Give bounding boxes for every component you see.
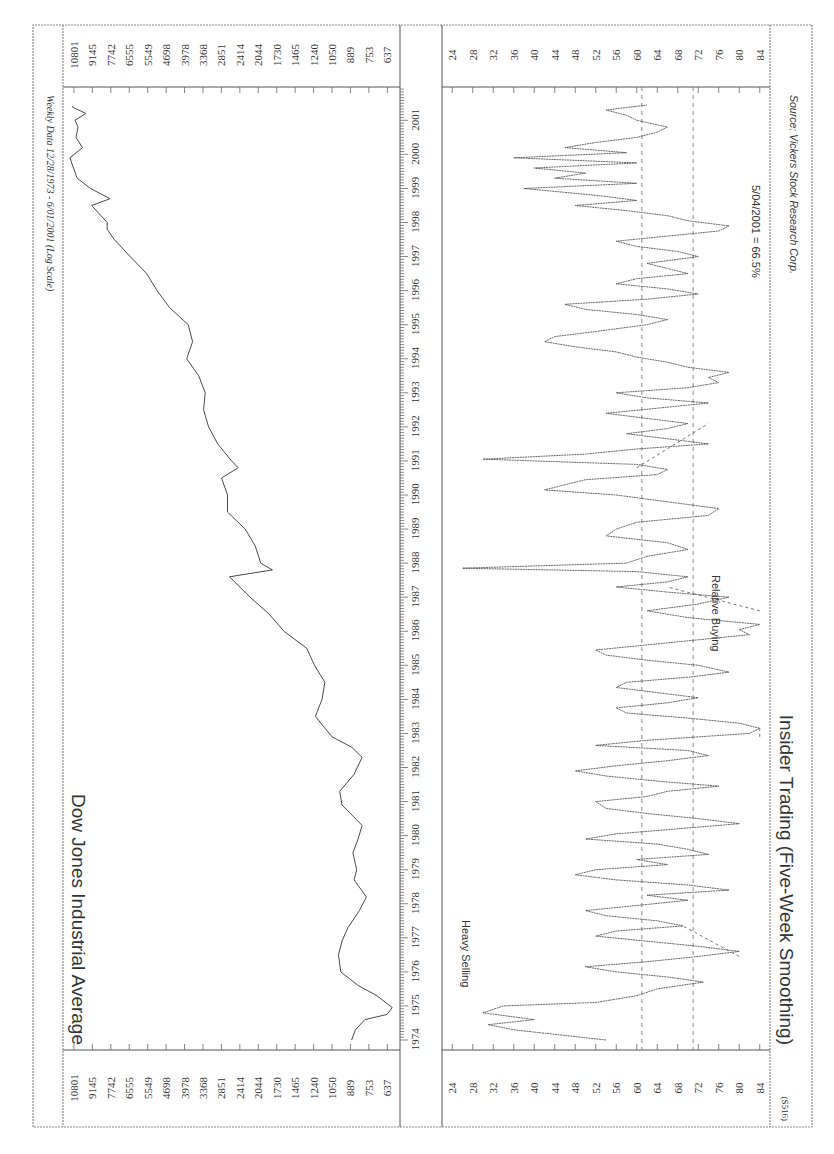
year-label: 1984: [409, 687, 421, 710]
djia-y-axis-left: 6377538891050124014651730204424142851336…: [68, 1044, 393, 1102]
insider-y-tick-label: 56: [610, 49, 622, 61]
year-label: 1979: [409, 858, 421, 881]
year-label: 1996: [409, 278, 421, 301]
djia-panel-title: Dow Jones Industrial Average: [68, 794, 89, 1045]
djia-y-tick-label: 1050: [326, 44, 338, 67]
insider-y-tick-label: 68: [672, 49, 684, 61]
year-label: 1976: [409, 960, 421, 983]
insider-y-tick-label: 32: [487, 1083, 499, 1094]
year-label: 1985: [409, 653, 421, 676]
insider-y-tick-label: 36: [508, 1082, 520, 1094]
djia-y-tick-label: 5549: [142, 44, 154, 67]
djia-y-tick-label: 1240: [308, 44, 320, 67]
insider-trading-line: [463, 105, 760, 1040]
insider-y-tick-label: 44: [549, 1082, 561, 1094]
djia-y-tick-label: 7742: [105, 1077, 117, 1099]
insider-y-tick-label: 52: [590, 50, 602, 61]
insider-y-tick-label: 60: [631, 49, 643, 61]
insider-y-tick-label: 40: [528, 49, 540, 61]
djia-y-axis-right: 6377538891050124014651730204424142851336…: [68, 41, 393, 93]
year-label: 1988: [409, 551, 421, 574]
insider-panel-title: Insider Trading (Five-Week Smoothing): [776, 715, 797, 1045]
insider-y-tick-label: 72: [692, 1083, 704, 1094]
year-label: 2000: [409, 142, 421, 165]
heavy-selling-label: Heavy Selling: [460, 920, 472, 987]
year-label: 1991: [409, 449, 421, 471]
year-label: 1980: [409, 823, 421, 846]
insider-y-tick-label: 76: [713, 1082, 725, 1094]
insider-y-tick-label: 48: [569, 1082, 581, 1094]
insider-y-tick-label: 36: [508, 49, 520, 61]
year-label: 1999: [409, 176, 421, 199]
djia-y-tick-label: 4698: [160, 1077, 172, 1100]
latest-reading-label: 5/04/2001 = 66.5%: [750, 185, 762, 278]
rotated-chart-page: 84807672686460565248444036322824 8480767…: [0, 0, 834, 1154]
djia-y-tick-label: 889: [344, 1079, 356, 1096]
djia-y-tick-label: 1730: [271, 44, 283, 67]
djia-y-tick-label: 2044: [252, 44, 264, 67]
insider-y-tick-label: 68: [672, 1082, 684, 1094]
year-label: 1997: [409, 244, 421, 267]
insider-y-tick-label: 80: [733, 49, 745, 61]
year-label: 1992: [409, 415, 421, 437]
djia-plot: [70, 107, 392, 1040]
insider-y-axis-right: 84807672686460565248444036322824: [446, 49, 766, 93]
year-label: 1975: [409, 994, 421, 1017]
djia-y-tick-label: 1730: [271, 1077, 283, 1100]
insider-y-tick-label: 24: [446, 1082, 458, 1094]
djia-y-tick-label: 2851: [215, 44, 227, 66]
year-label: 1978: [409, 892, 421, 915]
year-label: 1994: [409, 347, 421, 370]
djia-y-tick-label: 6555: [123, 1077, 135, 1100]
insider-y-tick-label: 72: [692, 50, 704, 61]
djia-y-tick-label: 10801: [68, 1074, 80, 1102]
djia-y-tick-label: 2851: [215, 1077, 227, 1099]
insider-y-tick-label: 76: [713, 49, 725, 61]
insider-y-tick-label: 84: [754, 1082, 766, 1094]
insider-y-tick-label: 64: [651, 1082, 663, 1094]
year-label: 1983: [409, 721, 421, 744]
djia-y-tick-label: 1240: [308, 1077, 320, 1100]
djia-y-tick-label: 2414: [234, 1077, 246, 1100]
insider-y-tick-label: 60: [631, 1082, 643, 1094]
year-label: 1986: [409, 619, 421, 642]
chart-canvas: 84807672686460565248444036322824 8480767…: [0, 0, 834, 1154]
insider-y-tick-label: 48: [569, 49, 581, 61]
insider-y-tick-label: 52: [590, 1083, 602, 1094]
year-label: 1982: [409, 756, 421, 778]
djia-y-tick-label: 1050: [326, 1077, 338, 1100]
insider-y-tick-label: 40: [528, 1082, 540, 1094]
year-label: 1990: [409, 483, 421, 506]
djia-subtitle: Weekly Data 12/28/1973 - 6/01/2001 (Log …: [44, 95, 56, 292]
djia-y-tick-label: 9145: [86, 44, 98, 67]
insider-y-axis-left: 84807672686460565248444036322824: [446, 1044, 766, 1094]
chart-footnote: (S516): [780, 1097, 790, 1122]
insider-y-tick-label: 80: [733, 1082, 745, 1094]
year-label: 1977: [409, 926, 421, 949]
djia-y-tick-label: 7742: [105, 44, 117, 66]
insider-y-tick-label: 56: [610, 1082, 622, 1094]
djia-y-tick-label: 5549: [142, 1077, 154, 1100]
djia-y-tick-label: 6555: [123, 44, 135, 67]
djia-y-tick-label: 1465: [289, 44, 301, 67]
djia-y-tick-label: 637: [381, 1079, 393, 1096]
x-axis-years: 1974197519761977197819791980198119821983…: [400, 89, 421, 1050]
year-label: 1989: [409, 517, 421, 540]
year-label: 1974: [409, 1028, 421, 1051]
djia-y-tick-label: 3368: [197, 44, 209, 67]
djia-y-tick-label: 889: [344, 46, 356, 63]
insider-y-tick-label: 32: [487, 50, 499, 61]
year-label: 1993: [409, 381, 421, 404]
relative-buying-label: Relative Buying: [710, 575, 722, 651]
djia-y-tick-label: 4698: [160, 44, 172, 67]
year-label: 1987: [409, 585, 421, 608]
djia-y-tick-label: 2044: [252, 1077, 264, 1100]
djia-y-tick-label: 753: [363, 1079, 375, 1096]
djia-y-tick-label: 10801: [68, 41, 80, 69]
djia-y-tick-label: 753: [363, 46, 375, 63]
source-credit: Source: Vickers Stock Research Corp.: [788, 95, 800, 274]
insider-y-tick-label: 24: [446, 49, 458, 61]
year-label: 1998: [409, 210, 421, 233]
djia-y-tick-label: 2414: [234, 44, 246, 67]
djia-y-tick-label: 1465: [289, 1077, 301, 1100]
